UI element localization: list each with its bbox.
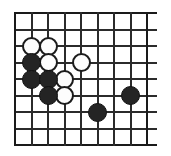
grid-line-horizontal-1 (14, 29, 157, 31)
black-stone-g7[interactable] (88, 103, 107, 122)
white-stone-e6[interactable] (55, 86, 74, 105)
black-stone-j6[interactable] (121, 86, 140, 105)
grid-line-vertical-8 (146, 12, 148, 146)
grid-line-vertical-6 (113, 12, 115, 146)
grid-line-horizontal-7 (14, 128, 157, 130)
grid-line-vertical-4 (80, 12, 82, 146)
grid-line-vertical-7 (130, 12, 132, 146)
black-stone-d6[interactable] (39, 86, 58, 105)
grid-line-horizontal-6 (14, 111, 157, 113)
grid-line-horizontal-0 (14, 12, 157, 14)
white-stone-f4[interactable] (72, 53, 91, 72)
grid-line-vertical-0 (14, 12, 16, 146)
go-diagram-figure (0, 0, 171, 156)
grid-line-vertical-5 (97, 12, 99, 146)
go-board[interactable] (0, 0, 171, 156)
grid-line-horizontal-8 (14, 144, 157, 146)
